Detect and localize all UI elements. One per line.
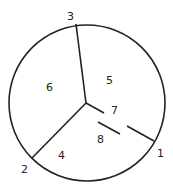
point-label-1: 1 — [157, 147, 164, 160]
region-label-6: 6 — [46, 81, 53, 94]
region-label-8: 8 — [97, 133, 104, 146]
region-label-5: 5 — [106, 74, 113, 87]
region-label-7: 7 — [111, 104, 118, 117]
dash-outer-line — [127, 126, 154, 141]
spoke-to-7-line — [86, 103, 104, 113]
point-label-3: 3 — [67, 10, 74, 23]
circle-diagram: 12345678 — [0, 0, 173, 194]
region-label-4: 4 — [58, 149, 65, 162]
spoke-to-3-line — [76, 24, 86, 103]
point-label-2: 2 — [21, 163, 28, 176]
